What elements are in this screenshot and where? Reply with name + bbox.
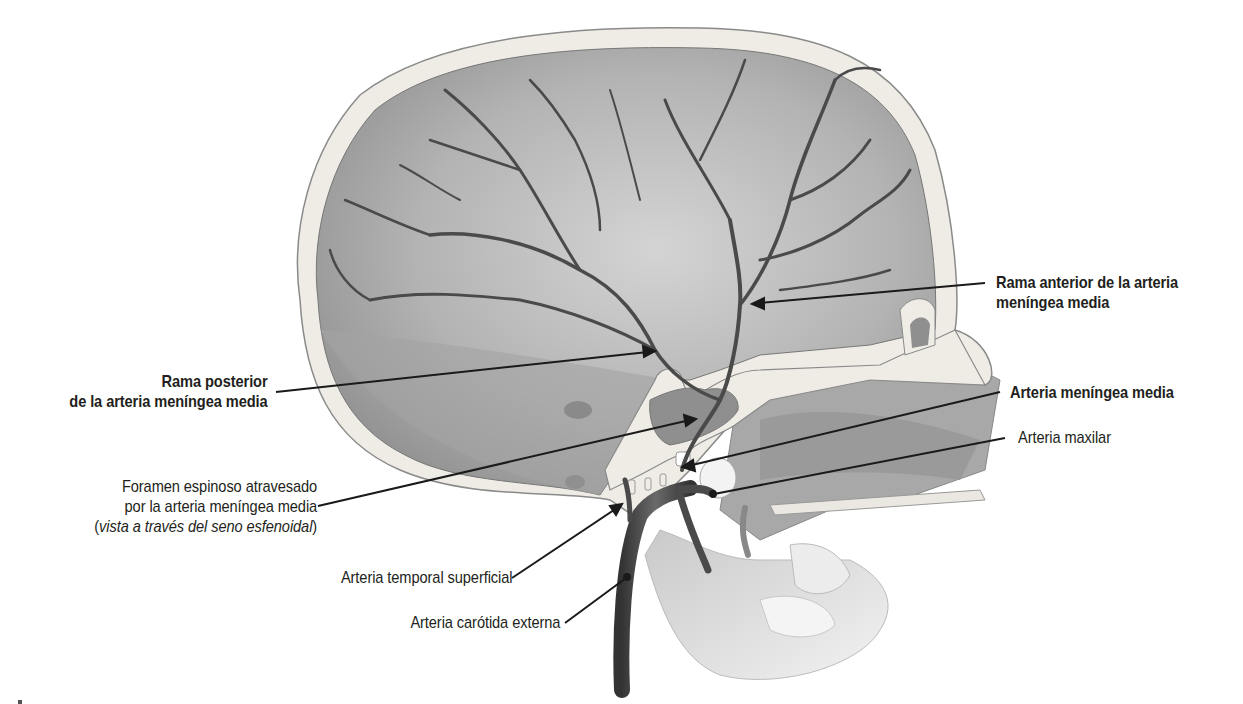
label-arteria-temporal-superficial: Arteria temporal superficial <box>341 568 512 588</box>
label-foramen-line1: Foramen espinoso atravesado <box>94 477 317 497</box>
label-foramen-espinoso: Foramen espinoso atravesado por la arter… <box>94 477 317 537</box>
label-foramen-line2: por la arteria meníngea media <box>94 497 317 517</box>
label-foramen-italic: vista a través del seno esfenoidal <box>99 517 312 536</box>
paren-close: ) <box>312 517 317 536</box>
corner-mark <box>18 700 22 704</box>
mandible-group <box>645 530 888 679</box>
label-arteria-carotida-externa: Arteria carótida externa <box>410 613 560 633</box>
label-rama-posterior-line1: Rama posterior <box>70 372 268 392</box>
label-rama-posterior-line2: de la arteria meníngea media <box>70 392 268 412</box>
label-arteria-meningea-media: Arteria meníngea media <box>1010 383 1174 403</box>
label-rama-posterior: Rama posterior de la arteria meníngea me… <box>70 372 268 412</box>
label-rama-anterior-line2: meníngea media <box>996 293 1178 313</box>
label-rama-anterior: Rama anterior de la arteria meníngea med… <box>996 273 1178 313</box>
label-arteria-maxilar: Arteria maxilar <box>1018 428 1111 448</box>
label-foramen-line3: (vista a través del seno esfenoidal) <box>94 517 317 537</box>
skull-illustration <box>0 0 1243 704</box>
label-rama-anterior-line1: Rama anterior de la arteria <box>996 273 1178 293</box>
